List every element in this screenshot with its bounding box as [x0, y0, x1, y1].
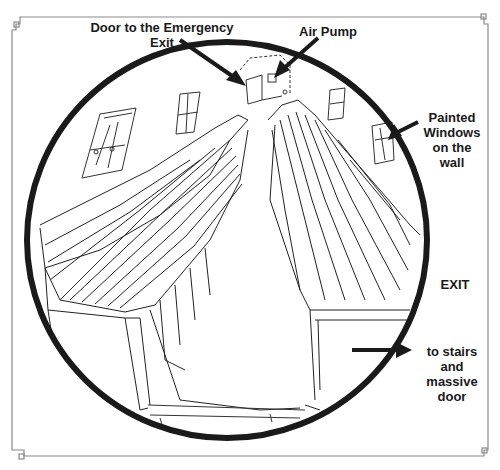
label-door-emergency-exit: Door to the Emergency Exit	[62, 20, 262, 50]
label-stairs-massive-door: to stairs and massive door	[412, 344, 492, 404]
right-bench	[268, 100, 420, 410]
label-exit: EXIT	[430, 277, 480, 292]
floor-edge	[148, 405, 305, 425]
diagram-canvas: Door to the Emergency Exit Air Pump Pain…	[0, 0, 500, 470]
circle-outline	[27, 42, 427, 438]
back-door	[240, 55, 290, 104]
label-air-pump: Air Pump	[288, 24, 368, 39]
left-bench	[40, 115, 300, 410]
arrow-exit	[352, 342, 412, 358]
air-pump-box	[268, 74, 287, 94]
label-painted-windows: Painted Windows on the wall	[412, 110, 492, 170]
